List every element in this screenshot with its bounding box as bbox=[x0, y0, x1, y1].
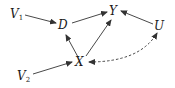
edge-u-y bbox=[121, 11, 153, 24]
svg-text:X: X bbox=[74, 55, 84, 69]
node-v1: V1 bbox=[10, 7, 23, 22]
svg-text:U: U bbox=[154, 19, 165, 33]
node-u: U bbox=[154, 19, 165, 33]
node-y: Y bbox=[109, 4, 118, 18]
causal-diagram: V1 D Y U X V2 bbox=[0, 0, 175, 88]
edge-x-d bbox=[66, 35, 78, 57]
svg-text:Y: Y bbox=[109, 4, 118, 18]
node-x: X bbox=[74, 55, 84, 69]
edge-x-y bbox=[86, 20, 111, 56]
svg-text:D: D bbox=[57, 18, 68, 32]
node-v2: V2 bbox=[17, 69, 30, 84]
svg-text:V1: V1 bbox=[10, 7, 23, 22]
edge-v1-d bbox=[25, 15, 56, 23]
svg-text:V2: V2 bbox=[17, 69, 30, 84]
edge-v2-x bbox=[33, 62, 72, 74]
diagram-svg: V1 D Y U X V2 bbox=[0, 0, 175, 88]
node-d: D bbox=[57, 18, 68, 32]
edge-d-y bbox=[72, 12, 107, 23]
